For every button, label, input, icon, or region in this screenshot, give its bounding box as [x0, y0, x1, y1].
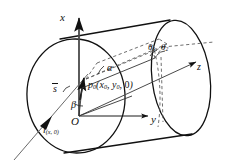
figure-canvas: x y z O p0(x0, y0, 0) s β ϕ α θ1 θ2 l(x,…	[0, 0, 229, 167]
p0-z: 0	[125, 79, 130, 90]
front-circle	[23, 36, 129, 157]
angle-alpha-label: α	[107, 63, 112, 73]
theta1-sub: 1	[152, 46, 155, 52]
cylinder-top-line	[60, 20, 170, 39]
angle-theta1-label: θ1	[148, 43, 155, 53]
cylinder-bottom-line	[64, 134, 192, 153]
arc-phi	[63, 86, 70, 92]
axis-label-x: x	[60, 12, 65, 23]
vector-s-glyph: s	[53, 84, 57, 94]
origin-label: O	[71, 116, 79, 127]
angle-theta2-label: θ2	[161, 43, 168, 53]
point-p0-label: p0(x0, y0, 0)	[88, 80, 133, 91]
theta2-sub: 2	[165, 46, 168, 52]
angle-beta-label: β	[71, 100, 76, 110]
axis-label-z: z	[197, 62, 201, 72]
axis-label-y: y	[151, 114, 156, 125]
vector-s-label: s	[53, 84, 57, 94]
line-l-label: l(x, 0)	[43, 125, 59, 136]
p0-coords: (x0, y0, 0)	[96, 79, 133, 90]
front-circle-group	[23, 36, 129, 157]
l-sub: (x, 0)	[46, 128, 59, 135]
arc-alpha	[98, 66, 104, 74]
dash-upper-right	[163, 42, 214, 47]
